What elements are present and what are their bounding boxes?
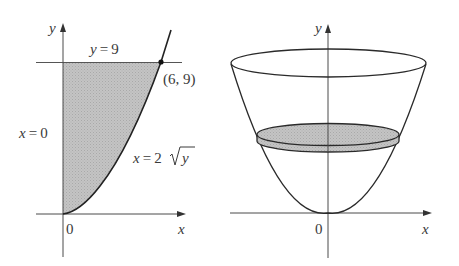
label-x-equals-2-sqrt-y: x=2 y — [132, 147, 195, 166]
label-x-equals-0: x=0 — [18, 125, 48, 141]
diagram-canvas: y x 0 y=9 x=0 (6, 9) x=2 y — [0, 0, 459, 266]
point-6-9-marker — [158, 59, 163, 64]
label-y-equals-9: y=9 — [88, 41, 119, 57]
y-axis-3d-arrow-icon — [325, 24, 331, 33]
x-axis-3d-arrow-icon — [423, 210, 432, 216]
shaded-region — [63, 62, 161, 214]
svg-text:x=2: x=2 — [132, 150, 162, 166]
y-axis-arrow-icon — [60, 23, 66, 32]
svg-text:y: y — [180, 150, 189, 166]
right-panel: y x 0 — [230, 20, 432, 258]
origin-3d-label: 0 — [315, 221, 323, 237]
point-label-6-9: (6, 9) — [163, 71, 196, 88]
y-axis-3d-label: y — [313, 20, 322, 36]
x-axis-arrow-icon — [177, 211, 186, 217]
disk-cross-section — [257, 124, 399, 153]
left-panel: y x 0 y=9 x=0 (6, 9) x=2 y — [18, 20, 196, 257]
x-axis-3d-label: x — [421, 221, 429, 237]
origin-label: 0 — [66, 221, 74, 237]
x-axis-label: x — [177, 221, 185, 237]
y-axis-label: y — [47, 20, 56, 36]
